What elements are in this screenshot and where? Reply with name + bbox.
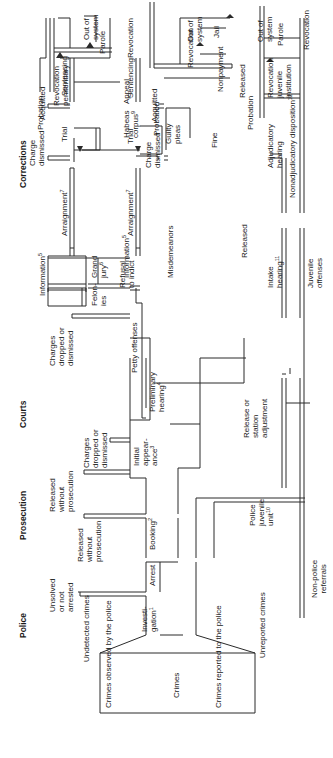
label-preliminary-hearing: Preliminary hearing4 <box>148 372 166 412</box>
label-information-bottom: Information5 <box>122 235 131 278</box>
label-charge-dismissed-bottom: Charge dismissed <box>144 132 162 168</box>
label-probation-2: Probation <box>152 102 161 136</box>
label-revocation-juvenile-institution: Revocation juvenile institution <box>266 58 293 98</box>
stage-header-prosecution: Prosecution <box>18 491 28 540</box>
label-juvenile-offenses: Juvenile offenses <box>306 258 324 288</box>
label-guilty-pleas: Guilty pleas <box>164 124 182 144</box>
label-initial-appearance: Initial appear- ance3 <box>132 438 159 466</box>
stage-header-police: Police <box>18 613 28 638</box>
label-charge-dismissed-top: Charge dismissed <box>28 130 46 166</box>
label-habeas-corpus: Habeas corpus9 <box>122 110 140 138</box>
label-crimes: Crimes <box>172 673 181 698</box>
label-appeal: Appeal <box>122 79 131 104</box>
label-intake-hearing: Intake hearing11 <box>266 256 284 288</box>
label-charges-dropped-1: Charges dropped or dismissed <box>82 429 109 468</box>
label-arrest: Arrest <box>148 565 157 586</box>
label-police-juvenile-unit: Police juvenile unit10 <box>248 499 275 526</box>
label-out-of-system-3: Out of system <box>256 17 274 42</box>
label-booking: Booking2 <box>148 518 157 550</box>
label-probation-1: Probation <box>36 96 45 130</box>
label-grand-jury: Grand jury6 <box>90 256 108 278</box>
label-released-without-prosecution-1: Released without prosecution <box>76 521 103 562</box>
label-non-police-referrals: Non-police referrals <box>310 560 328 598</box>
label-nonpayment: Nonpayment <box>216 47 225 92</box>
label-release-station-adjustment: Release or station adjustment <box>242 399 269 438</box>
label-arraignment-bottom: Arraignment7 <box>126 189 135 236</box>
label-felonies: Felon- ies <box>90 283 108 306</box>
label-adjudicatory-hearing: Adjudicatory hearing <box>266 124 284 168</box>
label-parole-3: Parole <box>276 23 285 46</box>
label-investigation: Investi- gation1 <box>140 606 158 632</box>
label-released-adjudicatory: Released <box>238 64 247 98</box>
label-misdemeanors: Misdemeanors <box>166 226 175 278</box>
label-unsolved: Unsolved or not arrested <box>48 579 75 612</box>
label-released-without-prosecution-2: Released without prosecution <box>48 471 75 512</box>
label-revocation-3: Revocation <box>302 10 311 50</box>
label-unreported-crimes: Unreported crimes <box>258 592 267 658</box>
label-charges-dropped-2: Charges dropped or dismissed <box>48 327 75 366</box>
label-out-of-system-2: Out of system <box>186 17 204 42</box>
label-crimes-observed: Crimes observed by the police <box>104 600 113 708</box>
label-petty-offenses: Petty offenses <box>130 322 139 373</box>
stage-header-courts: Courts <box>18 401 28 428</box>
label-out-of-system-1: Out of system <box>82 15 100 40</box>
label-released-juvenile: Released <box>240 224 249 258</box>
label-arraignment-top: Arraignment7 <box>60 189 69 236</box>
label-revocation-penitentiary: Revocation penitentiary <box>52 65 70 106</box>
label-trial-top: Trial <box>60 127 69 142</box>
label-nonadjudicatory-disposition: Nonadjudicatory disposition12 <box>288 94 297 198</box>
flowchart-diagram: Police Prosecution Courts Corrections Cr… <box>0 0 333 758</box>
label-jail: Jail <box>212 26 221 38</box>
flowchart-lines <box>0 0 333 758</box>
label-probation-3: Probation <box>246 96 255 130</box>
label-undetected-crimes: Undetected crimes <box>82 595 91 662</box>
label-crimes-reported: Crimes reported to the police <box>214 605 223 708</box>
stage-header-corrections: Corrections <box>18 140 28 188</box>
label-fine: Fine <box>210 132 219 148</box>
label-information-top: Information5 <box>38 253 47 296</box>
label-revocation-1: Revocation <box>126 18 135 58</box>
